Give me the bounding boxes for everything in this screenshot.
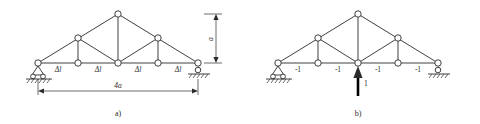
support-roller-a3 (195, 67, 201, 73)
roller-support-a (188, 67, 210, 78)
span-dimension-a: 4a (38, 79, 198, 95)
node-bottom-2-a (75, 60, 81, 66)
node-bottom-1-b (275, 60, 281, 66)
ground-hatch-b-left (267, 79, 290, 83)
pin-leg-left-a (32, 66, 38, 75)
pin-support-b (266, 66, 292, 83)
node-bottom-5-a (195, 60, 201, 66)
pin-leg-right-a (38, 66, 44, 75)
span-arrow-right-a (192, 89, 198, 94)
ground-hatch-a-right (189, 74, 208, 78)
member-label-a-3: Δl (134, 65, 142, 74)
node-bottom-4-a (155, 60, 161, 66)
node-top-left-b (315, 35, 321, 41)
node-top-right-a (155, 35, 161, 41)
height-dimension-label-a: a (206, 37, 215, 41)
unit-load-label-b: 1 (364, 79, 368, 88)
member-label-a-1: Δl (54, 65, 62, 74)
node-top-left-a (75, 35, 81, 41)
panel-b-caption: b) (355, 109, 362, 118)
node-bottom-2-b (315, 60, 321, 66)
node-apex-a (115, 11, 121, 17)
member-label-b-1: -1 (295, 65, 301, 74)
panel-b-members (278, 14, 438, 63)
node-bottom-3-b (355, 60, 361, 66)
ground-hatch-b-right (429, 74, 448, 78)
support-roller-a1 (31, 74, 36, 79)
support-roller-b3 (435, 67, 441, 73)
support-roller-b2 (281, 74, 286, 79)
member-label-b-2: -1 (335, 65, 341, 74)
node-bottom-4-b (395, 60, 401, 66)
height-dimension-a: a (204, 14, 222, 63)
node-bottom-5-b (435, 60, 441, 66)
ground-hatch-a-left (27, 79, 50, 83)
support-roller-b1 (271, 74, 276, 79)
panel-a-members (38, 14, 198, 63)
node-apex-b (355, 11, 361, 17)
support-roller-a2 (41, 74, 46, 79)
member-label-b-4: -1 (415, 65, 421, 74)
diagonal-right-a (118, 38, 158, 63)
roller-support-b (428, 67, 450, 78)
diagonal-left-b (318, 38, 358, 63)
diagonal-right-b (358, 38, 398, 63)
truss-figure: Δl Δl Δl Δl a 4a (0, 0, 480, 124)
diagonal-left-a (78, 38, 118, 63)
member-label-a-2: Δl (94, 65, 102, 74)
span-arrow-left-a (38, 89, 44, 94)
unit-load-head-b (353, 66, 362, 78)
height-arrow-bottom-a (213, 57, 218, 63)
height-arrow-top-a (213, 14, 218, 20)
node-top-right-b (395, 35, 401, 41)
span-dimension-label-a: 4a (114, 81, 122, 90)
node-bottom-1-a (35, 60, 41, 66)
member-label-a-4: Δl (174, 65, 182, 74)
panel-b: -1 -1 -1 -1 1 b) (266, 11, 450, 118)
panel-a-caption: a) (115, 109, 122, 118)
unit-load-arrow-b: 1 (353, 66, 368, 96)
truss-diagram-svg: Δl Δl Δl Δl a 4a (0, 0, 480, 124)
member-label-b-3: -1 (375, 65, 381, 74)
node-bottom-3-a (115, 60, 121, 66)
panel-a: Δl Δl Δl Δl a 4a (26, 11, 222, 118)
pin-leg-left-b (272, 66, 278, 75)
pin-leg-right-b (278, 66, 284, 75)
pin-support-a (26, 66, 52, 83)
